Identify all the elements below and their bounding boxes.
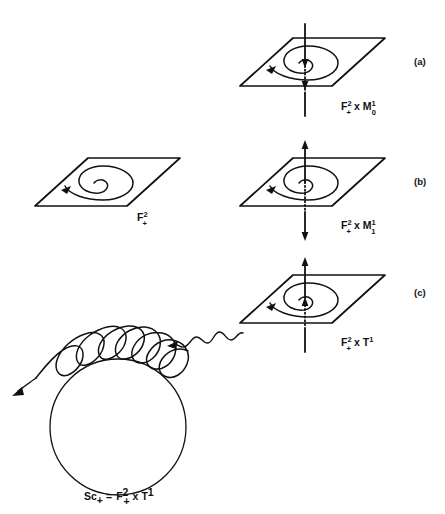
helix-exit-arrowhead [12, 387, 24, 396]
plain-plane-label: F2+ [137, 210, 148, 228]
panel-letter-a: (a) [414, 56, 426, 67]
panel-a-plane [240, 38, 385, 86]
panel-c-plane [240, 275, 385, 323]
wavy-arrow-connector [167, 332, 243, 349]
panel-b-spiral [266, 166, 338, 200]
panel-plain-plane: F2+ [35, 158, 180, 228]
plain-plane-shape [35, 158, 180, 206]
axis-arrow-up-top [302, 140, 309, 149]
panel-b-label: F2+xM11 [341, 218, 376, 236]
panel-b-plane [240, 158, 385, 206]
axis-arrow-up-top [302, 257, 309, 266]
figure-root: F2+xM10 (a) F2+ [0, 0, 445, 514]
solenoid-label: Sc+=F2+xT1 [84, 486, 154, 507]
panel-letter-c: (c) [414, 287, 426, 298]
panel-a-spiral [266, 46, 338, 80]
panel-b: F2+xM11 (b) [240, 140, 426, 241]
panel-c-spiral [266, 283, 338, 317]
solenoid-figure: Sc+=F2+xT1 [12, 326, 188, 507]
panel-b-axis [302, 140, 309, 241]
solenoid-helix [36, 326, 188, 378]
panel-a: F2+xM10 (a) [240, 24, 426, 117]
plain-plane-spiral [61, 166, 133, 200]
figure-canvas: F2+xM10 (a) F2+ [0, 0, 445, 514]
panel-c-axis [302, 257, 309, 352]
axis-arrow-down-bottom [302, 232, 309, 241]
solenoid-circle [50, 359, 186, 495]
panel-c: F2+xT1 (c) [240, 257, 426, 353]
axis-arrow-up-middle [302, 297, 309, 306]
panel-c-label: F2+xT1 [341, 335, 373, 353]
panel-a-label: F2+xM10 [341, 99, 376, 117]
panel-letter-b: (b) [414, 176, 426, 187]
